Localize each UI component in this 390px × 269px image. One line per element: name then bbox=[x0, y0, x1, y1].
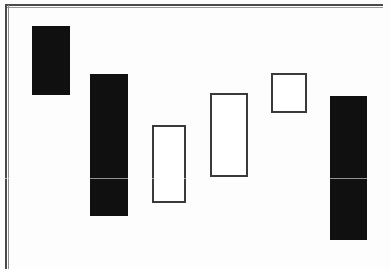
candle-body-2 bbox=[90, 74, 128, 216]
frame-rule-left bbox=[5, 4, 7, 269]
candle-body-6 bbox=[330, 96, 367, 240]
candle-body-1 bbox=[32, 26, 70, 95]
frame-rule-left-inner bbox=[8, 5, 9, 269]
frame-rule-top bbox=[5, 4, 383, 6]
frame-rule-top-inner bbox=[6, 7, 383, 8]
candle-body-3 bbox=[152, 125, 186, 203]
candle-body-4 bbox=[210, 93, 248, 177]
figure-root bbox=[0, 0, 390, 269]
candle-body-5 bbox=[271, 73, 307, 113]
